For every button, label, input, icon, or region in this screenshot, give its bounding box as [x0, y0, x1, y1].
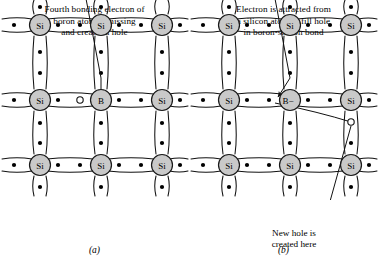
atom-label: Si — [347, 96, 355, 106]
atom-label: Si — [36, 96, 44, 106]
figure-boron-doped-silicon: Fourth bonding electron of boron atom is… — [0, 0, 378, 275]
atom-label: Si — [225, 21, 233, 31]
panel-b-lattice: Si Si Si Si B− Si Si Si Si — [189, 0, 378, 200]
atom-label: Si — [225, 96, 233, 106]
new-hole-marker — [348, 119, 354, 125]
panel-b-label: (b) — [189, 245, 378, 255]
hole-marker — [77, 97, 83, 103]
panel-b: Electron is attracted from a silicon ato… — [189, 0, 378, 275]
new-hole-caption-line: New hole is — [239, 228, 349, 239]
atom-label: Si — [286, 21, 294, 31]
atoms: Si Si Si Si B Si Si Si Si — [30, 15, 173, 176]
panel-a-lattice: Si Si Si Si B Si Si Si Si — [0, 0, 189, 200]
atom-label: Si — [97, 161, 105, 171]
atom-label: Si — [158, 21, 166, 31]
atom-label: Si — [97, 21, 105, 31]
atom-label-boron-ion: B− — [282, 96, 293, 106]
atom-label: Si — [347, 21, 355, 31]
panel-a-label: (a) — [0, 245, 189, 255]
atom-label: Si — [36, 161, 44, 171]
atom-label: Si — [158, 161, 166, 171]
atoms: Si Si Si Si B− Si Si Si Si — [219, 15, 362, 176]
atom-label: Si — [286, 161, 294, 171]
panel-a: Fourth bonding electron of boron atom is… — [0, 0, 189, 275]
atom-label: Si — [347, 161, 355, 171]
atom-label: Si — [36, 21, 44, 31]
atom-label: Si — [225, 161, 233, 171]
atom-label: Si — [158, 96, 166, 106]
atom-label-boron: B — [98, 96, 104, 106]
